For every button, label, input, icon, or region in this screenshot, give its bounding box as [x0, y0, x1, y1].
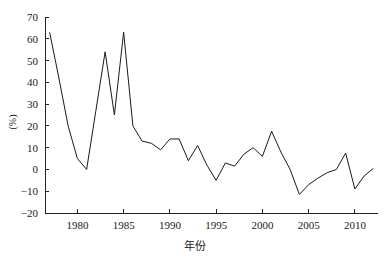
y-axis-tick-label: 50	[27, 55, 39, 67]
x-axis-tick-label: 2000	[251, 219, 274, 231]
x-axis-tick-label: 1995	[205, 219, 228, 231]
x-axis-tick-label: 2010	[344, 219, 367, 231]
y-axis-title: (%)	[7, 115, 19, 130]
x-axis-tick-label: 2005	[298, 219, 321, 231]
y-axis-tick-label: 70	[27, 11, 39, 23]
chart-container: 706050403020100−10−20 198019851990199520…	[0, 0, 387, 260]
data-series-line	[50, 32, 374, 194]
x-axis-title: 年份	[184, 239, 206, 252]
y-axis-tick-label: 60	[27, 33, 39, 45]
x-axis-tick-label: 1980	[66, 219, 89, 231]
y-axis-tick-label: 0	[33, 163, 39, 175]
x-axis-tick-labels-group: 1980198519901995200020052010	[66, 219, 366, 231]
y-axis-tick-label: 40	[27, 76, 39, 88]
y-axis-tick-label: 10	[27, 142, 39, 154]
x-axis-tick-label: 1990	[159, 219, 182, 231]
x-axis-tick-label: 1985	[113, 219, 136, 231]
y-axis-ticks-group	[45, 17, 49, 213]
y-axis-tick-label: 30	[27, 98, 39, 110]
y-axis-tick-label: −10	[21, 185, 39, 197]
x-axis-ticks-group	[77, 209, 355, 213]
line-chart: 706050403020100−10−20 198019851990199520…	[0, 0, 387, 260]
y-axis-tick-label: −20	[21, 207, 39, 219]
y-axis-tick-label: 20	[27, 120, 39, 132]
y-axis-tick-labels-group: 706050403020100−10−20	[21, 11, 39, 219]
